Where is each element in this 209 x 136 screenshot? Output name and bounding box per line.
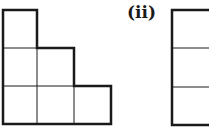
staircase-outline [3,10,111,124]
figure-label-ii: (ii) [127,4,156,21]
figure-staircase [3,10,111,124]
column-outline [172,10,209,125]
diagram-canvas [0,0,209,136]
figure-column [172,10,209,125]
